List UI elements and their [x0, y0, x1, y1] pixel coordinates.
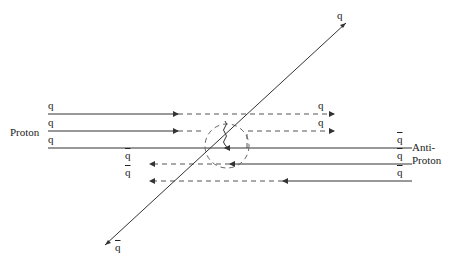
- jet-antiquark-label: q: [115, 242, 121, 253]
- quark-label-3: q: [48, 134, 54, 145]
- antiquark-label-l2: q: [125, 167, 131, 178]
- out-quark-label-1: q: [318, 100, 324, 111]
- jet-quark-label: q: [337, 10, 343, 21]
- interaction-region: [205, 124, 249, 168]
- proton-label: Proton: [10, 127, 39, 138]
- quark-label-2: q: [48, 117, 54, 128]
- feynman-diagram: Proton q q q q q q q q Anti- Proton q q …: [0, 0, 452, 267]
- proton-quark-2-dashed-out: [247, 131, 334, 148]
- antiproton-label-2: Proton: [412, 155, 441, 166]
- antiquark-label-r1: q: [397, 134, 403, 145]
- quark-label-1: q: [48, 100, 54, 111]
- antiproton-label-1: Anti-: [412, 142, 435, 153]
- diagram-lines: [0, 0, 452, 267]
- jet-line: [105, 23, 346, 245]
- out-quark-label-2: q: [318, 117, 324, 128]
- antiquark-label-r2: q: [397, 150, 403, 161]
- antiquark-label-l1: q: [125, 150, 131, 161]
- antiquark-label-r3: q: [397, 167, 403, 178]
